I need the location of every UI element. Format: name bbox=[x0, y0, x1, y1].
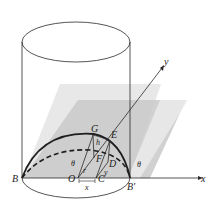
label-y-segment: y bbox=[103, 168, 108, 177]
label-F: F bbox=[95, 153, 103, 164]
label-B-prime: B' bbox=[127, 181, 136, 192]
label-y-axis: y bbox=[163, 56, 169, 67]
label-theta-right: θ bbox=[137, 160, 141, 169]
label-B: B bbox=[12, 173, 18, 184]
label-theta-left: θ bbox=[71, 159, 75, 168]
label-x-segment: x bbox=[84, 183, 89, 192]
label-E: E bbox=[110, 129, 117, 140]
cylinder-wedge-diagram: B B' O C G E F D h r y x θ θ x y bbox=[0, 0, 218, 209]
cylinder-bottom-front-arc bbox=[22, 178, 130, 198]
label-D: D bbox=[108, 158, 117, 169]
label-G: G bbox=[91, 123, 98, 134]
label-O: O bbox=[68, 173, 75, 184]
cylinder-top-ellipse bbox=[22, 22, 130, 62]
label-x-axis: x bbox=[200, 173, 206, 184]
label-h: h bbox=[96, 138, 100, 147]
